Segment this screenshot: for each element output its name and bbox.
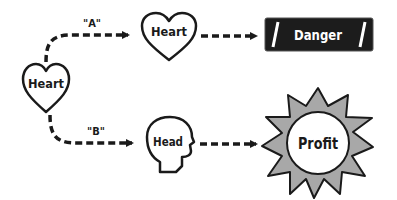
start-heart-label: Heart: [28, 76, 64, 91]
edge-a-label: "A": [83, 17, 101, 30]
head-label: Head: [153, 134, 183, 149]
flow-diagram: "A" "B" Heart Heart Danger Head Profit: [0, 0, 397, 200]
edge-a: "A": [46, 17, 128, 62]
profit-node: Profit: [262, 88, 373, 198]
edge-b: "B": [50, 115, 132, 143]
top-heart-label: Heart: [151, 24, 187, 39]
start-heart-node: Heart: [23, 64, 69, 112]
danger-label: Danger: [294, 27, 343, 43]
danger-node: Danger: [265, 18, 373, 51]
edge-b-label: "B": [87, 125, 105, 138]
top-heart-node: Heart: [142, 13, 196, 60]
profit-label: Profit: [298, 135, 339, 153]
head-node: Head: [147, 117, 194, 172]
